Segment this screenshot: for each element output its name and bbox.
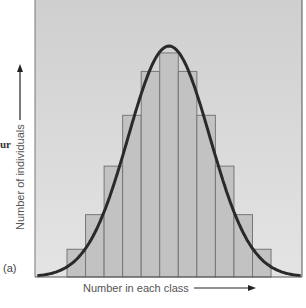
- histogram-bar: [141, 71, 160, 277]
- histogram-chart: [0, 0, 306, 308]
- histogram-bar: [123, 115, 142, 277]
- histogram-bar: [160, 53, 179, 277]
- histogram-bar: [197, 115, 216, 277]
- histogram-bar: [178, 71, 197, 277]
